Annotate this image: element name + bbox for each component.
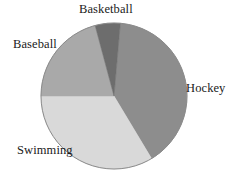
pie-label-hockey: Hockey (186, 82, 225, 95)
pie-label-baseball: Baseball (13, 38, 57, 51)
pie-chart: Basketball Baseball Hockey Swimming (0, 0, 241, 183)
pie-label-basketball: Basketball (79, 3, 133, 16)
pie-label-swimming: Swimming (17, 144, 73, 157)
